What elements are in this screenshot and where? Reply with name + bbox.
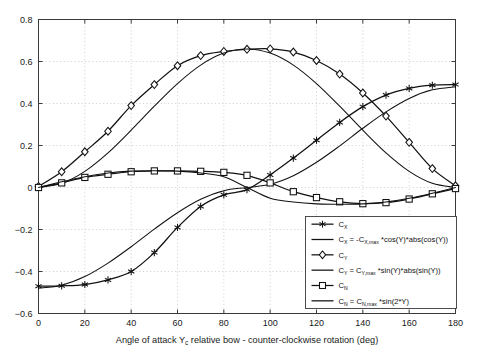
y-tick-label: −0.2 [15, 225, 33, 235]
x-tick-label: 20 [80, 318, 90, 328]
y-tick-label: 0 [27, 183, 32, 193]
x-tick-label: 80 [219, 318, 229, 328]
marker-square [320, 283, 326, 289]
y-tick-label: 0.2 [20, 141, 33, 151]
marker-square [105, 171, 111, 177]
legend: CXCX = -CX,max *cos(Y)*abs(cos(Y))CYCY =… [306, 217, 457, 309]
series-model-3 [39, 49, 456, 188]
marker-diamond [336, 70, 343, 78]
y-tick-label: −0.4 [15, 267, 33, 277]
x-tick-label: 160 [402, 318, 417, 328]
y-tick-label: 0.8 [20, 15, 33, 25]
x-tick-label: 60 [172, 318, 182, 328]
x-tick-label: 120 [309, 318, 324, 328]
marker-square [221, 169, 227, 175]
marker-asterisk [360, 103, 366, 110]
marker-square [313, 194, 319, 200]
marker-asterisk [337, 119, 343, 126]
marker-diamond [290, 48, 297, 56]
y-tick-label: −0.6 [15, 309, 33, 319]
legend-label: CY = CY,max *sin(Y)*abs(sin(Y)) [339, 266, 442, 276]
marker-square [290, 189, 296, 195]
marker-diamond [197, 52, 204, 60]
x-tick-label: 0 [36, 318, 41, 328]
marker-asterisk [290, 155, 296, 162]
marker-square [59, 180, 65, 186]
series-data-2 [35, 45, 459, 190]
plot-canvas: 020406080100120140160180−0.6−0.4−0.200.2… [0, 0, 478, 350]
marker-diamond [58, 168, 65, 176]
legend-box [306, 217, 457, 309]
chart-figure: 020406080100120140160180−0.6−0.4−0.200.2… [0, 0, 478, 350]
marker-asterisk [313, 137, 319, 144]
y-tick-label: 0.4 [20, 99, 33, 109]
marker-square [244, 172, 250, 178]
marker-diamond [267, 45, 274, 53]
marker-diamond [174, 62, 181, 70]
series-path [39, 49, 456, 188]
legend-label: CX = -CX,max *cos(Y)*abs(cos(Y)) [339, 235, 449, 245]
x-axis-title: Angle of attack Yc relative bow - counte… [116, 335, 378, 346]
marker-asterisk [198, 203, 204, 210]
marker-diamond [313, 57, 320, 65]
x-axis-title-text: Angle of attack Yc relative bow - counte… [116, 335, 378, 346]
series-path [39, 49, 456, 187]
marker-square [267, 180, 273, 186]
marker-asterisk [267, 171, 273, 178]
x-tick-label: 180 [448, 318, 463, 328]
x-tick-label: 40 [126, 318, 136, 328]
marker-asterisk [221, 191, 227, 198]
y-tick-label: 0.6 [20, 57, 33, 67]
x-tick-label: 140 [355, 318, 370, 328]
x-tick-label: 100 [263, 318, 278, 328]
marker-asterisk [383, 92, 389, 99]
